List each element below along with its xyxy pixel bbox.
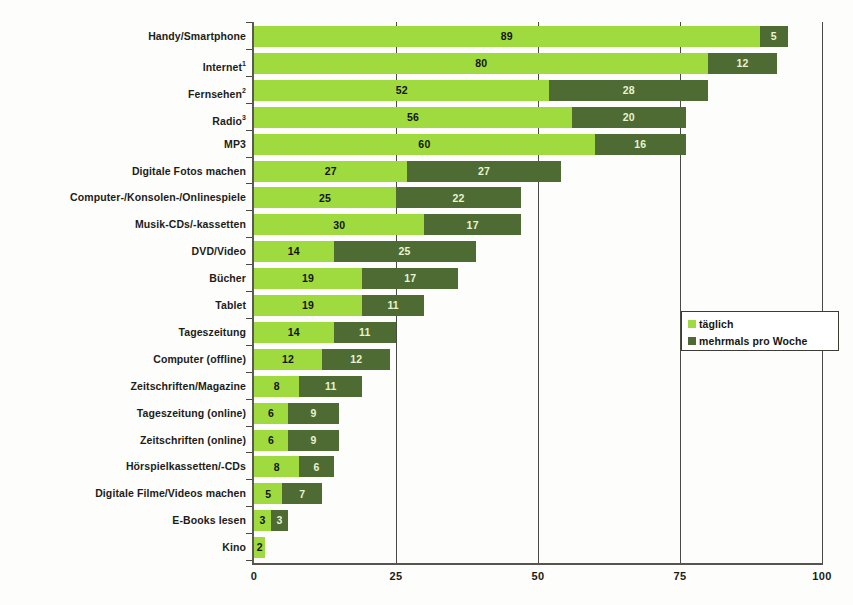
bar-value-mehrmals-pro-woche: 11 (359, 327, 371, 338)
category-label: Bücher (209, 268, 246, 289)
bar-value-mehrmals-pro-woche: 20 (623, 112, 635, 123)
footnote-marker: 1 (242, 60, 246, 67)
y-tick-mark (246, 426, 252, 427)
stacked-bar: 33 (254, 510, 288, 531)
bar-row: Bücher1917 (0, 268, 853, 289)
category-label: Tageszeitung (178, 322, 246, 343)
y-tick-mark (246, 22, 252, 23)
category-label: E-Books lesen (172, 510, 246, 531)
bar-segment-taeglich: 8 (254, 456, 299, 477)
bar-segment-mehrmals-pro-woche: 20 (572, 107, 686, 128)
stacked-bar: 2727 (254, 161, 561, 182)
bar-value-mehrmals-pro-woche: 7 (299, 489, 305, 500)
bar-segment-mehrmals-pro-woche: 9 (288, 403, 339, 424)
stacked-bar: 86 (254, 456, 334, 477)
bar-row: Musik-CDs/-kassetten3017 (0, 214, 853, 235)
y-tick-mark (246, 345, 252, 346)
category-label: Hörspielkassetten/-CDs (126, 456, 246, 477)
bar-value-mehrmals-pro-woche: 5 (771, 31, 777, 42)
bar-value-mehrmals-pro-woche: 17 (404, 273, 416, 284)
y-tick-mark (246, 560, 252, 561)
bar-segment-taeglich: 56 (254, 107, 572, 128)
stacked-bar: 3017 (254, 214, 521, 235)
bar-segment-taeglich: 19 (254, 268, 362, 289)
bar-value-mehrmals-pro-woche: 11 (387, 300, 399, 311)
y-tick-mark (246, 399, 252, 400)
bar-value-taeglich: 30 (333, 220, 345, 231)
x-tick-label-75: 75 (674, 570, 687, 582)
stacked-bar: 1212 (254, 349, 390, 370)
bar-row: E-Books lesen33 (0, 510, 853, 531)
category-label: Tablet (215, 295, 246, 316)
category-label: Digitale Filme/Videos machen (95, 483, 246, 504)
bar-row: Kino2 (0, 537, 853, 558)
category-label: Radio3 (212, 107, 246, 128)
bar-value-taeglich: 19 (302, 273, 314, 284)
y-tick-mark (246, 533, 252, 534)
footnote-marker: 2 (242, 87, 246, 94)
bar-value-taeglich: 6 (268, 408, 274, 419)
category-label: Kino (222, 537, 246, 558)
stacked-bar: 1411 (254, 322, 396, 343)
category-label: Digitale Fotos machen (132, 161, 246, 182)
bar-segment-taeglich: 14 (254, 322, 334, 343)
bar-segment-mehrmals-pro-woche: 12 (708, 53, 776, 74)
bar-segment-taeglich: 27 (254, 161, 407, 182)
bar-segment-mehrmals-pro-woche: 16 (595, 134, 686, 155)
category-label: Computer-/Konsolen-/Onlinespiele (70, 187, 246, 208)
bar-value-taeglich: 56 (407, 112, 419, 123)
bar-row: Tageszeitung (online)69 (0, 403, 853, 424)
y-tick-mark (246, 506, 252, 507)
bar-row: DVD/Video1425 (0, 241, 853, 262)
bar-segment-taeglich: 5 (254, 483, 282, 504)
bar-segment-taeglich: 14 (254, 241, 334, 262)
bar-segment-taeglich: 8 (254, 376, 299, 397)
legend-label-mehrmals-pro-woche: mehrmals pro Woche (699, 335, 807, 347)
y-tick-mark (246, 130, 252, 131)
bar-row: Digitale Fotos machen2727 (0, 161, 853, 182)
stacked-bar-chart: 0255075100 Handy/Smartphone895Internet18… (0, 0, 853, 605)
y-tick-mark (246, 479, 252, 480)
y-tick-mark (246, 452, 252, 453)
category-label: Zeitschriften (online) (140, 430, 246, 451)
legend-item-taeglich: täglich (688, 316, 833, 332)
gridline-100 (822, 22, 823, 563)
x-tick-label-0: 0 (251, 570, 257, 582)
bar-segment-mehrmals-pro-woche: 17 (424, 214, 521, 235)
bar-value-taeglich: 8 (274, 381, 280, 392)
bar-value-taeglich: 5 (265, 489, 271, 500)
bar-value-mehrmals-pro-woche: 9 (311, 408, 317, 419)
y-tick-mark (246, 183, 252, 184)
category-label: Musik-CDs/-kassetten (135, 214, 246, 235)
x-tick-label-100: 100 (812, 570, 831, 582)
bar-segment-mehrmals-pro-woche: 11 (299, 376, 361, 397)
bar-segment-taeglich: 2 (254, 537, 265, 558)
category-label: Handy/Smartphone (148, 26, 246, 47)
bar-segment-taeglich: 30 (254, 214, 424, 235)
category-label: DVD/Video (192, 241, 246, 262)
y-tick-mark (246, 157, 252, 158)
y-tick-mark (246, 76, 252, 77)
stacked-bar: 69 (254, 430, 339, 451)
y-tick-mark (246, 264, 252, 265)
bar-segment-mehrmals-pro-woche: 25 (334, 241, 476, 262)
category-label: Fernsehen2 (188, 80, 246, 101)
bar-segment-taeglich: 19 (254, 295, 362, 316)
bar-value-taeglich: 12 (282, 354, 294, 365)
y-tick-mark (246, 49, 252, 50)
bar-segment-taeglich: 80 (254, 53, 708, 74)
y-tick-mark (246, 291, 252, 292)
category-label: Tageszeitung (online) (137, 403, 246, 424)
x-tick-label-25: 25 (390, 570, 403, 582)
bar-value-mehrmals-pro-woche: 3 (277, 515, 283, 526)
bar-value-mehrmals-pro-woche: 25 (398, 246, 410, 257)
stacked-bar: 57 (254, 483, 322, 504)
bar-value-mehrmals-pro-woche: 28 (623, 85, 635, 96)
bar-value-mehrmals-pro-woche: 11 (325, 381, 337, 392)
footnote-marker: 3 (242, 114, 246, 121)
bar-value-taeglich: 3 (259, 515, 265, 526)
bar-value-taeglich: 19 (302, 300, 314, 311)
bar-segment-mehrmals-pro-woche: 28 (549, 80, 708, 101)
bar-row: Handy/Smartphone895 (0, 26, 853, 47)
bar-value-taeglich: 27 (325, 166, 337, 177)
